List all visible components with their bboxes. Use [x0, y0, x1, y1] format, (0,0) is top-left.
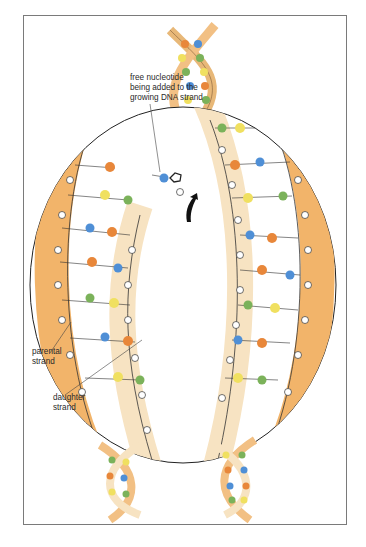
parental-label-line-1: parental — [32, 347, 62, 357]
daughter-label-line-2: strand — [53, 403, 85, 413]
nucleotide-label: free nucleotide being added to the growi… — [130, 73, 203, 103]
daughter-label-line-1: daughter — [53, 393, 85, 403]
parental-label-line-2: strand — [32, 357, 62, 367]
parental-strand-label: parental strand — [32, 347, 62, 367]
daughter-strand-label: daughter strand — [53, 393, 85, 413]
nucleotide-label-line-1: free nucleotide — [130, 73, 203, 83]
bottom-right-helix — [215, 440, 255, 520]
bottom-left-helix — [100, 445, 140, 520]
nucleotide-label-line-3: growing DNA strand — [130, 93, 203, 103]
nucleotide-label-line-2: being added to the — [130, 83, 203, 93]
